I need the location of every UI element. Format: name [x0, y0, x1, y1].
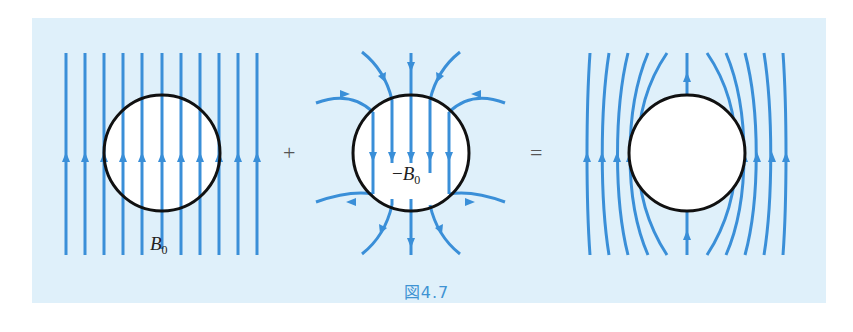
- equals-operator: =: [530, 140, 542, 166]
- sphere-outline: [629, 95, 745, 211]
- figure-caption: 図4.7: [0, 279, 853, 303]
- figure-4-7: + = B0 −B0 図4.7: [0, 0, 853, 332]
- label-b0: B0: [150, 233, 168, 258]
- label-minus-b0: −B0: [390, 163, 422, 188]
- plus-operator: +: [283, 140, 295, 166]
